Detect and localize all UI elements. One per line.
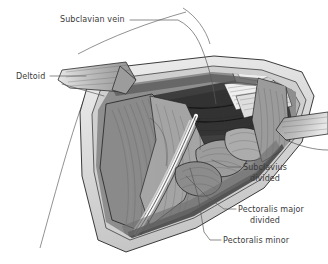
label-subclavius-divided-line1: Subclavius (243, 163, 287, 172)
label-subclavius-divided-line2: divided (250, 174, 280, 183)
label-pectoralis-minor: Pectoralis minor (223, 236, 290, 245)
label-deltoid: Deltoid (16, 72, 45, 81)
label-pectoralis-major-divided-line2: divided (250, 216, 280, 225)
label-pectoralis-major-divided-line1: Pectoralis major (238, 205, 305, 214)
deltoid-muscle-band (58, 62, 136, 94)
label-subclavian-vein: Subclavian vein (60, 15, 125, 24)
anatomical-figure: Subclavian vein Deltoid Subclavius divid… (0, 0, 328, 264)
